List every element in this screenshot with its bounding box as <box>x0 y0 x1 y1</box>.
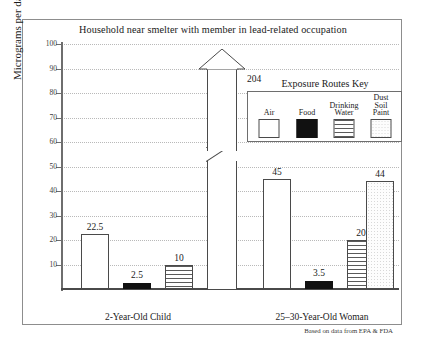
legend-label-line3: Paint <box>373 108 389 117</box>
ytick-50 <box>56 167 63 168</box>
legend-item-dust-soil-paint[interactable]: Dust Soil Paint <box>363 92 399 141</box>
bar-value-label: 10 <box>174 253 184 263</box>
legend-label-line2: Water <box>335 108 354 117</box>
legend-swatch-dust-soil-paint <box>371 119 392 138</box>
bar-value-label: 45 <box>272 167 282 177</box>
bar-value-label: 3.5 <box>313 268 325 278</box>
bar-child-drinking-water[interactable]: 10 <box>165 265 193 290</box>
arrow-shaft-upper <box>207 66 237 151</box>
chart-frame: Household near smelter with member in le… <box>22 19 402 325</box>
ytick-40 <box>56 191 63 192</box>
ylabel-50: 50 <box>33 162 57 171</box>
legend-swatch-air <box>259 119 280 138</box>
ylabel-40: 40 <box>33 186 57 195</box>
ytick-100 <box>56 44 63 45</box>
x-group-label-woman: 25–30-Year-Old Woman <box>237 312 407 322</box>
gridline-100 <box>61 44 399 45</box>
legend-label-line1: Food <box>299 108 315 117</box>
ylabel-80: 80 <box>33 88 57 97</box>
legend-title: Exposure Routes Key <box>245 78 405 89</box>
ylabel-10: 10 <box>33 260 57 269</box>
legend-item-label: Air <box>251 109 287 117</box>
ylabel-70: 70 <box>33 113 57 122</box>
bar-child-air[interactable]: 22.5 <box>81 234 109 289</box>
ytick-70 <box>56 118 63 119</box>
ylabel-90: 90 <box>33 64 57 73</box>
arrow-head-icon <box>198 49 246 70</box>
ylabel-60: 60 <box>33 137 57 146</box>
bar-woman-dust-soil-paint[interactable]: 44 <box>366 181 394 289</box>
ytick-20 <box>56 240 63 241</box>
ytick-60 <box>56 142 63 143</box>
legend-item-label: Food <box>289 109 325 117</box>
bar-value-label: 44 <box>375 169 385 179</box>
ylabel-30: 30 <box>33 211 57 220</box>
bar-child-food[interactable]: 2.5 <box>123 283 151 289</box>
ylabel-100: 100 <box>33 39 57 48</box>
legend-item-food[interactable]: Food <box>289 92 325 141</box>
bar-value-label: 22.5 <box>87 222 104 232</box>
ytick-10 <box>56 265 63 266</box>
ytick-90 <box>56 69 63 70</box>
legend-swatch-drinking-water <box>334 119 355 138</box>
legend-label-line1: Air <box>264 108 275 117</box>
ytick-80 <box>56 93 63 94</box>
legend-item-drinking-water[interactable]: Drinking Water <box>326 92 362 141</box>
legend-item-air[interactable]: Air <box>251 92 287 141</box>
legend-box: Air Food Drinking Water Dust Soil Paint <box>247 91 402 142</box>
bar-woman-food[interactable]: 3.5 <box>305 281 333 290</box>
bar-value-label: 2.5 <box>131 270 143 280</box>
legend-item-label: Dust Soil Paint <box>363 94 399 117</box>
ytick-30 <box>56 216 63 217</box>
bar-woman-air[interactable]: 45 <box>263 179 291 289</box>
y-axis-title: Micrograms per day <box>11 0 23 80</box>
x-group-label-child: 2-Year-Old Child <box>63 312 213 322</box>
ylabel-20: 20 <box>33 235 57 244</box>
bar-value-label: 20 <box>356 228 366 238</box>
legend-swatch-food <box>297 119 318 138</box>
legend-item-label: Drinking Water <box>326 102 362 117</box>
arrow-shaft-lower <box>207 161 237 289</box>
source-note: Based on data from EPA & FDA <box>304 327 393 334</box>
chart-title: Household near smelter with member in le… <box>23 24 403 35</box>
